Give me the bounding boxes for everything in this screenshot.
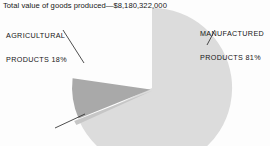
callout-agricultural-line1: AGRICULTURAL (6, 32, 67, 40)
callout-label-manufactured: MANUFACTURED PRODUCTS 81% (200, 14, 264, 79)
callout-manufactured-line2: PRODUCTS 81% (200, 54, 264, 62)
callout-label-agricultural: AGRICULTURAL PRODUCTS 18% (6, 16, 67, 81)
callout-agricultural-line2: PRODUCTS 18% (6, 56, 67, 64)
callout-label-fish-mineral: FISH AND MINERAL PRODUCTS 1% (23, 131, 96, 146)
chart-title: Total value of goods produced—$8,180,322… (3, 2, 167, 11)
callout-manufactured-line1: MANUFACTURED (200, 30, 264, 38)
pie-chart-figure: Total value of goods produced—$8,180,322… (0, 0, 270, 146)
